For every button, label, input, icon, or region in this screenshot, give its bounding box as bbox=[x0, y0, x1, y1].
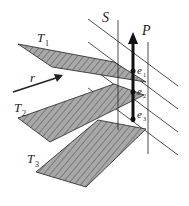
label-e2-sub: 2 bbox=[143, 93, 146, 99]
point-e1 bbox=[131, 69, 136, 74]
label-e2: e bbox=[137, 85, 142, 97]
point-e3 bbox=[131, 117, 136, 122]
label-e1-sub: 1 bbox=[143, 72, 146, 78]
label-e3-sub: 3 bbox=[143, 116, 146, 122]
label-e3: e bbox=[137, 108, 142, 120]
label-t2: T bbox=[14, 100, 22, 115]
label-t1: T bbox=[37, 30, 45, 45]
label-p: P bbox=[141, 23, 151, 38]
plane-t1 bbox=[18, 44, 146, 82]
label-e1: e bbox=[137, 64, 142, 76]
thick-arrow-head bbox=[128, 32, 138, 44]
label-t3: T bbox=[27, 151, 35, 166]
label-t3-sub: 3 bbox=[35, 160, 39, 169]
label-t2-sub: 2 bbox=[22, 109, 26, 118]
label-t1-sub: 1 bbox=[45, 39, 49, 48]
diagram-canvas: S P T 1 r T 2 T 3 e 1 e 2 e 3 bbox=[0, 0, 189, 206]
label-r: r bbox=[30, 70, 36, 85]
label-s: S bbox=[102, 10, 109, 25]
point-e2 bbox=[131, 90, 136, 95]
